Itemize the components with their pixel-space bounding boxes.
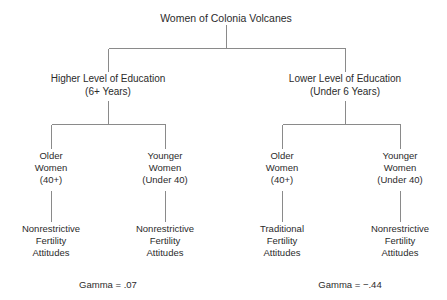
age-node-younger-higher-ed-line1: Younger [147,150,182,161]
age-node-younger-higher-ed: Younger Women (Under 40) [142,150,187,186]
gamma-label-lower-education: Gamma = −.44 [318,279,381,290]
age-node-older-lower-ed-line1: Older [270,150,293,161]
age-node-younger-lower-ed-line2: Women [377,162,422,174]
outcome-node-older-lower-ed-line2: Fertility [260,235,304,247]
outcome-node-older-lower-ed: Traditional Fertility Attitudes [260,223,304,259]
outcome-node-younger-lower-ed: Nonrestrictive Fertility Attitudes [371,223,429,259]
education-node-lower-line2: (Under 6 Years) [289,86,401,99]
outcome-node-younger-higher-ed-line3: Attitudes [136,247,194,259]
education-node-lower: Lower Level of Education (Under 6 Years) [289,73,401,99]
age-node-younger-higher-ed-line3: (Under 40) [142,174,187,186]
outcome-node-younger-lower-ed-line1: Nonrestrictive [371,223,429,234]
age-node-older-lower-ed: Older Women (40+) [266,150,299,186]
age-node-younger-lower-ed-line3: (Under 40) [377,174,422,186]
education-node-higher: Higher Level of Education (6+ Years) [51,73,166,99]
education-node-lower-line1: Lower Level of Education [289,73,401,84]
age-node-older-higher-ed-line2: Women [35,162,68,174]
gamma-label-higher-education: Gamma = .07 [79,279,137,290]
outcome-node-younger-higher-ed-line1: Nonrestrictive [136,223,194,234]
outcome-node-older-higher-ed: Nonrestrictive Fertility Attitudes [22,223,80,259]
age-node-older-lower-ed-line2: Women [266,162,299,174]
outcome-node-younger-lower-ed-line3: Attitudes [371,247,429,259]
outcome-node-older-higher-ed-line3: Attitudes [22,247,80,259]
outcome-node-older-lower-ed-line1: Traditional [260,223,304,234]
tree-diagram: Women of Colonia Volcanes Higher Level o… [0,0,447,300]
outcome-node-younger-higher-ed: Nonrestrictive Fertility Attitudes [136,223,194,259]
age-node-younger-higher-ed-line2: Women [142,162,187,174]
education-node-higher-line1: Higher Level of Education [51,73,166,84]
age-node-younger-lower-ed-line1: Younger [382,150,417,161]
outcome-node-younger-lower-ed-line2: Fertility [371,235,429,247]
root-node-label: Women of Colonia Volcanes [160,12,292,24]
age-node-older-lower-ed-line3: (40+) [266,174,299,186]
age-node-older-higher-ed-line3: (40+) [35,174,68,186]
outcome-node-younger-higher-ed-line2: Fertility [136,235,194,247]
age-node-older-higher-ed-line1: Older [39,150,62,161]
age-node-older-higher-ed: Older Women (40+) [35,150,68,186]
root-node: Women of Colonia Volcanes [160,12,292,25]
outcome-node-older-higher-ed-line1: Nonrestrictive [22,223,80,234]
age-node-younger-lower-ed: Younger Women (Under 40) [377,150,422,186]
outcome-node-older-higher-ed-line2: Fertility [22,235,80,247]
education-node-higher-line2: (6+ Years) [51,86,166,99]
outcome-node-older-lower-ed-line3: Attitudes [260,247,304,259]
